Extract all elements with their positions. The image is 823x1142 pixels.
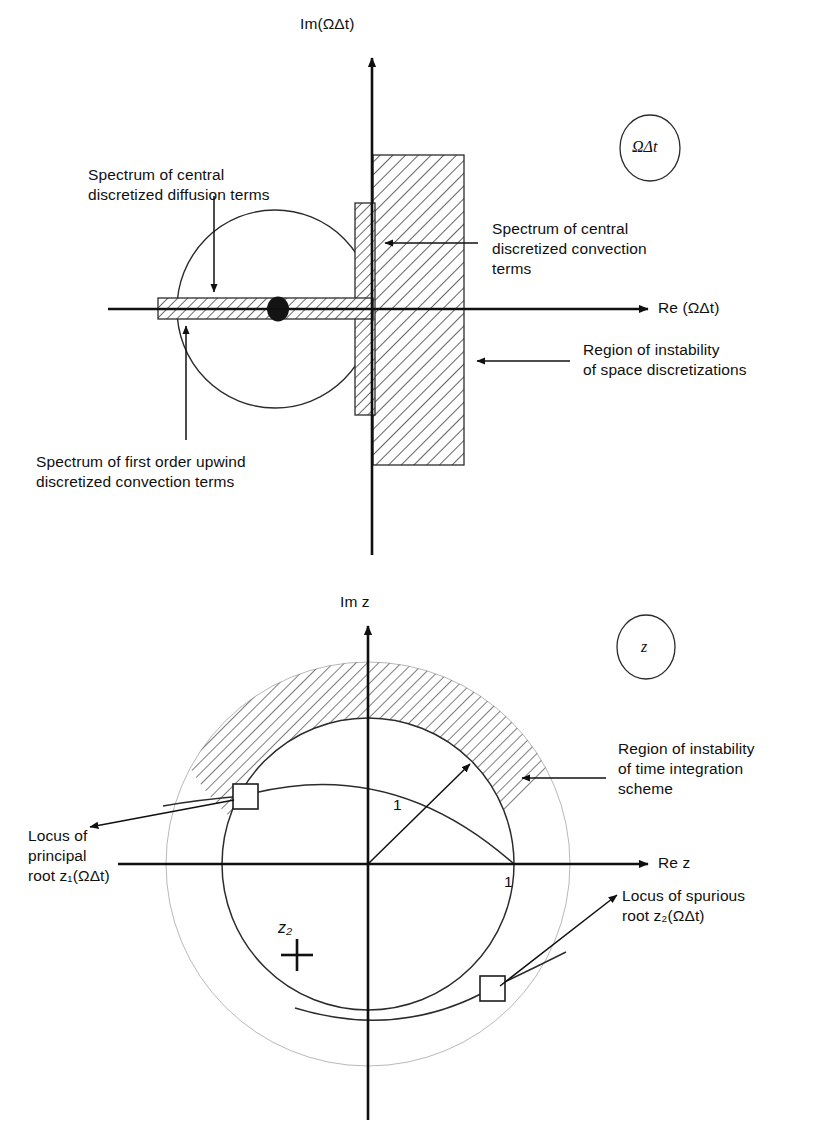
annotation-locus-principal-line3: root z₁(ΩΔt) [28, 866, 110, 886]
locus-marker-principal [233, 784, 258, 809]
annotation-central-convection-line2: discretized convection [492, 239, 647, 259]
annotation-locus-principal-line2: principal [28, 846, 87, 866]
annotation-instability-time-line1: Region of instability [618, 739, 755, 759]
annotation-locus-spurious-line2: root z₂(ΩΔt) [622, 906, 705, 926]
bottom-panel-badge-label: z [641, 638, 647, 656]
annotation-locus-principal-line1: Locus of [28, 826, 87, 846]
top-real-axis-label: Re (ΩΔt) [658, 298, 720, 318]
annotation-upwind-line2: discretized convection terms [36, 472, 234, 492]
annotation-instability-time-line2: of time integration [618, 759, 743, 779]
bottom-real-axis-label: Re z [658, 853, 690, 873]
panel-z [90, 615, 675, 1120]
z2-point-label: z₂ [278, 918, 292, 938]
annotation-diffusion-line2: discretized diffusion terms [88, 185, 270, 205]
annotation-upwind-line1: Spectrum of first order upwind [36, 452, 246, 472]
bottom-imaginary-axis-label: Im z [340, 592, 370, 612]
annotation-instability-time-line3: scheme [618, 779, 673, 799]
leader-locus-spurious [500, 895, 617, 986]
annotation-central-convection-line3: terms [492, 259, 531, 279]
real-unit-tick-label: 1 [504, 872, 513, 892]
annotation-instability-space-line2: of space discretizations [583, 360, 747, 380]
annotation-instability-space-line1: Region of instability [583, 340, 720, 360]
unit-radius-tick-label: 1 [393, 795, 402, 815]
annotation-central-convection-line1: Spectrum of central [492, 219, 628, 239]
top-imaginary-axis-label: Im(ΩΔt) [300, 14, 355, 34]
leader-locus-principal [90, 800, 234, 827]
top-panel-badge-label: ΩΔt [632, 138, 657, 156]
annotation-locus-spurious-line1: Locus of spurious [622, 886, 745, 906]
stability-figure: Im(ΩΔt) ΩΔt Spectrum of central discreti… [0, 0, 823, 1142]
locus-marker-spurious [480, 976, 505, 1001]
annotation-diffusion-line1: Spectrum of central [88, 165, 224, 185]
